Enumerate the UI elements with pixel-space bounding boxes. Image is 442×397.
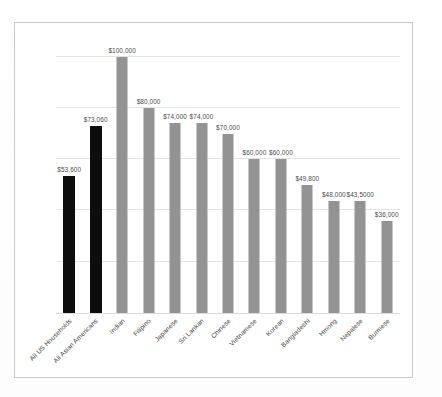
bar[interactable] bbox=[328, 201, 339, 313]
bar[interactable] bbox=[170, 123, 181, 313]
bar-value-label: $49,800 bbox=[295, 175, 319, 182]
bar-slot: $74,000 bbox=[188, 31, 214, 313]
bar-value-label: $60,000 bbox=[269, 149, 293, 156]
category-slot: Indian bbox=[109, 315, 135, 385]
bar-slot: $36,000 bbox=[374, 31, 400, 313]
bar[interactable] bbox=[355, 201, 366, 313]
bar-value-label: $43,5000 bbox=[347, 191, 374, 198]
category-slot: Korean bbox=[268, 315, 294, 385]
bar-value-label: $60,000 bbox=[243, 149, 267, 156]
bar[interactable] bbox=[143, 108, 154, 313]
bar-value-label: $36,000 bbox=[375, 211, 399, 218]
bar[interactable] bbox=[196, 123, 207, 313]
bar-slot: $74,000 bbox=[162, 31, 188, 313]
bar-slot: $49,800 bbox=[294, 31, 320, 313]
category-slot: Filipino bbox=[135, 315, 161, 385]
bar-slot: $80,000 bbox=[135, 31, 161, 313]
page-caption bbox=[16, 385, 426, 397]
bar[interactable] bbox=[275, 159, 286, 313]
bar-value-label: $74,000 bbox=[163, 113, 187, 120]
bar-slot: $60,000 bbox=[268, 31, 294, 313]
category-slot: Japanese bbox=[162, 315, 188, 385]
bar-value-label: $74,000 bbox=[190, 113, 214, 120]
category-label: Filipino bbox=[132, 317, 152, 337]
bar-value-label: $73,060 bbox=[84, 116, 108, 123]
category-label: All US Households bbox=[28, 317, 73, 362]
bars-group: $53,600$73,060$100,000$80,000$74,000$74,… bbox=[56, 31, 400, 313]
bar-slot: $53,600 bbox=[56, 31, 82, 313]
bar[interactable] bbox=[117, 57, 128, 313]
category-slot: Hmong bbox=[321, 315, 347, 385]
bar-value-label: $100,000 bbox=[108, 47, 135, 54]
bar[interactable] bbox=[302, 185, 313, 313]
category-axis-labels: All US HouseholdsAll Asian AmericansIndi… bbox=[56, 315, 400, 385]
bar[interactable] bbox=[63, 176, 75, 313]
category-label: Indian bbox=[108, 317, 126, 335]
bar-slot: $43,5000 bbox=[347, 31, 373, 313]
category-slot: All Asian Americans bbox=[82, 315, 108, 385]
bar-slot: $70,000 bbox=[215, 31, 241, 313]
page-background: $53,600$73,060$100,000$80,000$74,000$74,… bbox=[0, 0, 442, 397]
bar-slot: $73,060 bbox=[82, 31, 108, 313]
bar[interactable] bbox=[222, 134, 233, 313]
category-label: Korean bbox=[264, 317, 284, 337]
chart-frame: $53,600$73,060$100,000$80,000$74,000$74,… bbox=[14, 22, 413, 378]
category-slot: Bangladeshi bbox=[294, 315, 320, 385]
bar[interactable] bbox=[381, 221, 392, 313]
category-slot: Vietnamese bbox=[241, 315, 267, 385]
bar-slot: $60,000 bbox=[241, 31, 267, 313]
bar-value-label: $80,000 bbox=[137, 98, 161, 105]
plot-area: $53,600$73,060$100,000$80,000$74,000$74,… bbox=[56, 31, 400, 313]
bar-slot: $100,000 bbox=[109, 31, 135, 313]
category-label: Hmong bbox=[317, 317, 337, 337]
bar-slot: $48,000 bbox=[321, 31, 347, 313]
bar-value-label: $53,600 bbox=[57, 166, 81, 173]
bar-value-label: $48,000 bbox=[322, 191, 346, 198]
category-slot: Nepalese bbox=[347, 315, 373, 385]
bar-value-label: $70,000 bbox=[216, 124, 240, 131]
axis-baseline bbox=[56, 313, 400, 314]
bar[interactable] bbox=[249, 159, 260, 313]
bar[interactable] bbox=[90, 126, 102, 313]
category-slot: Chinese bbox=[215, 315, 241, 385]
category-slot: Burmese bbox=[374, 315, 400, 385]
category-slot: Sri Lankan bbox=[188, 315, 214, 385]
